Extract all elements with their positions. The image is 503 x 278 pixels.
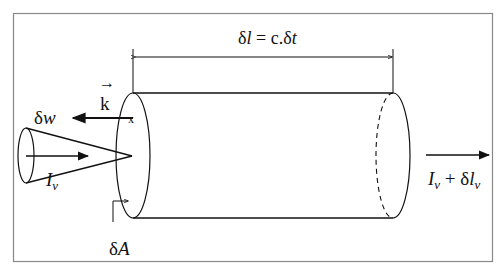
area-label: δA xyxy=(109,238,130,259)
outgoing-intensity-label: Iv + δlv xyxy=(427,168,481,192)
radiative-transfer-diagram: δl = c.δt x → k δw Iv δA Iv + δlv xyxy=(0,0,503,278)
length-dimension xyxy=(133,49,393,93)
solid-angle-label: δw xyxy=(34,107,56,128)
length-label: δl = c.δt xyxy=(238,28,298,48)
cross-mark: x xyxy=(128,112,134,126)
incident-intensity-label: Iv xyxy=(45,169,58,193)
wavevector-label: k xyxy=(100,93,110,114)
solid-angle-cone xyxy=(18,128,132,183)
cylinder-back-face-hidden xyxy=(376,93,393,218)
diagram-frame xyxy=(14,14,493,262)
cylinder-back-face-visible xyxy=(393,93,410,218)
cylinder-volume-element xyxy=(116,93,410,218)
wavevector-arrow-glyph: → xyxy=(99,74,115,91)
